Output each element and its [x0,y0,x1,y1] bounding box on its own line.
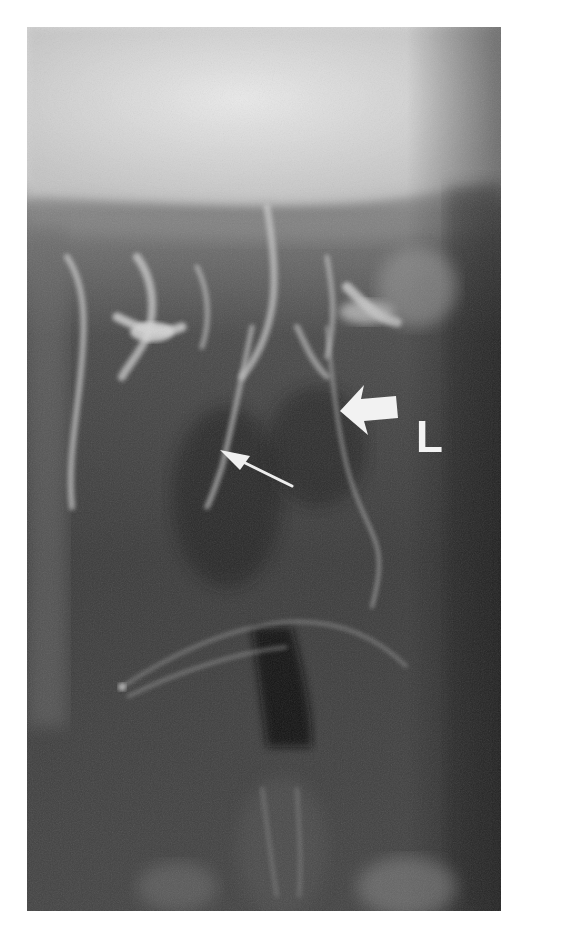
small-arrow-icon [220,450,295,490]
large-arrow-icon [340,385,398,435]
side-marker-label: L [416,415,443,459]
xray-image: L [27,27,501,911]
